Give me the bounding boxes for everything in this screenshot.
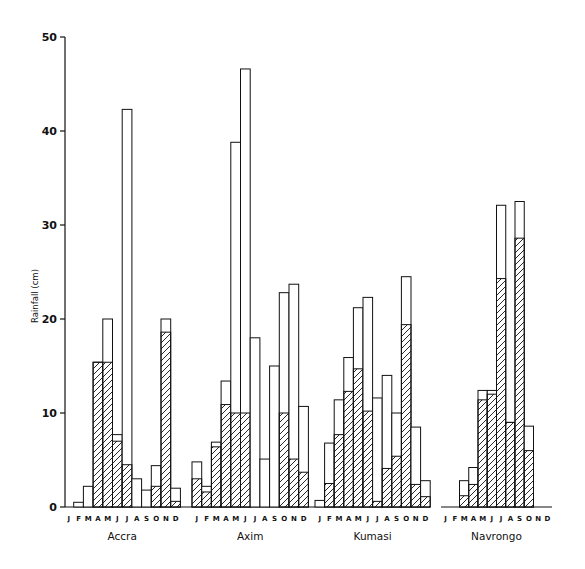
month-label: M — [479, 515, 486, 523]
y-axis-label: Rainfall (cm) — [30, 269, 40, 323]
bar-hatched — [460, 496, 469, 507]
month-label: M — [213, 515, 220, 523]
bar-hatched — [487, 394, 496, 507]
y-tick-label: 0 — [49, 501, 57, 514]
bar-total — [315, 500, 325, 507]
bar-hatched — [93, 362, 103, 507]
bar-hatched — [334, 435, 344, 507]
bar-hatched — [469, 484, 478, 507]
bar-hatched — [113, 441, 123, 507]
bar-hatched — [221, 405, 231, 507]
month-label: F — [327, 515, 332, 523]
y-tick-label: 50 — [42, 31, 58, 44]
bar-hatched — [401, 325, 411, 507]
station-group-accra — [74, 109, 181, 507]
month-label: O — [281, 515, 287, 523]
bar-hatched — [231, 413, 241, 507]
station-label: Axim — [237, 530, 264, 542]
month-label: N — [535, 515, 541, 523]
month-label: J — [375, 515, 379, 523]
bar-hatched — [211, 447, 221, 507]
month-label: S — [394, 515, 399, 523]
month-label: M — [104, 515, 111, 523]
month-label: J — [443, 515, 447, 523]
month-label: O — [526, 515, 532, 523]
station-label: Navrongo — [471, 530, 522, 542]
bar-hatched — [373, 501, 383, 507]
month-label: M — [336, 515, 343, 523]
month-label: J — [365, 515, 369, 523]
month-label: F — [76, 515, 81, 523]
month-label: N — [413, 515, 419, 523]
bar-total — [142, 490, 152, 507]
bar-hatched — [202, 492, 212, 507]
bar-hatched — [122, 465, 132, 507]
station-group-navrongo — [460, 202, 534, 508]
month-label: A — [384, 515, 390, 523]
month-labels: JFMAMJJASONDJFMAMJJASONDJFMAMJJASONDJFMA… — [67, 515, 551, 523]
month-label: A — [346, 515, 352, 523]
bar-hatched — [192, 479, 202, 507]
month-label: D — [301, 515, 307, 523]
station-label: Accra — [108, 530, 137, 542]
month-label: D — [422, 515, 428, 523]
bar-hatched — [344, 391, 354, 507]
y-axis: 01020304050 — [42, 31, 65, 514]
month-label: M — [355, 515, 362, 523]
month-label: A — [508, 515, 514, 523]
month-label: A — [471, 515, 477, 523]
month-label: A — [95, 515, 101, 523]
bar-total — [74, 502, 84, 507]
bar-hatched — [103, 362, 113, 507]
month-label: J — [115, 515, 119, 523]
bar-hatched — [392, 456, 402, 507]
month-label: N — [291, 515, 297, 523]
month-label: S — [272, 515, 277, 523]
month-label: D — [544, 515, 550, 523]
station-labels: AccraAximKumasiNavrongo — [108, 530, 522, 542]
bar-hatched — [171, 501, 181, 507]
bar-total — [260, 459, 270, 507]
y-tick-label: 10 — [42, 407, 58, 420]
bar-hatched — [289, 459, 299, 507]
bar-hatched — [279, 413, 289, 507]
month-label: J — [253, 515, 257, 523]
bar-total — [250, 338, 260, 507]
bar-total — [373, 398, 383, 507]
bar-total — [122, 109, 132, 507]
month-label: N — [163, 515, 169, 523]
bar-hatched — [515, 238, 524, 507]
bar-hatched — [325, 484, 335, 508]
bar-total — [83, 486, 93, 507]
station-group-kumasi — [315, 277, 430, 507]
month-label: J — [499, 515, 503, 523]
bar-hatched — [497, 279, 506, 507]
month-label: S — [144, 515, 149, 523]
bar-total — [270, 366, 280, 507]
bar-hatched — [241, 413, 251, 507]
bar-hatched — [353, 369, 363, 507]
bar-hatched — [151, 486, 161, 507]
y-tick-label: 30 — [42, 219, 58, 232]
month-label: J — [243, 515, 247, 523]
month-label: M — [85, 515, 92, 523]
bar-hatched — [382, 468, 392, 507]
month-label: A — [134, 515, 140, 523]
bar-hatched — [524, 451, 533, 507]
y-tick-label: 20 — [42, 313, 58, 326]
bar-hatched — [299, 472, 309, 507]
month-label: F — [204, 515, 209, 523]
month-label: A — [223, 515, 229, 523]
month-label: J — [195, 515, 199, 523]
station-group-axim — [192, 69, 308, 507]
month-label: J — [67, 515, 71, 523]
month-label: J — [317, 515, 321, 523]
rainfall-chart: 01020304050 Rainfall (cm) JFMAMJJASONDJF… — [0, 0, 585, 569]
y-tick-label: 40 — [42, 125, 58, 138]
month-label: S — [517, 515, 522, 523]
bar-hatched — [421, 497, 431, 507]
bars — [74, 69, 534, 507]
month-label: O — [403, 515, 409, 523]
month-label: F — [452, 515, 457, 523]
month-label: M — [232, 515, 239, 523]
